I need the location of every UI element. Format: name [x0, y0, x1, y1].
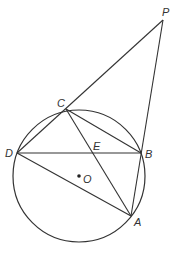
- label-p: P: [162, 6, 170, 18]
- label-a: A: [133, 216, 141, 228]
- line-cb: [66, 109, 141, 153]
- line-da: [17, 153, 131, 216]
- label-d: D: [5, 147, 13, 159]
- center-dot: [77, 174, 81, 178]
- label-b: B: [145, 148, 152, 160]
- line-pa: [131, 20, 163, 216]
- line-pd: [17, 20, 163, 153]
- geometry-diagram: P C D E B O A: [0, 0, 176, 257]
- label-c: C: [57, 97, 65, 109]
- label-o: O: [83, 173, 92, 185]
- label-e: E: [93, 140, 101, 152]
